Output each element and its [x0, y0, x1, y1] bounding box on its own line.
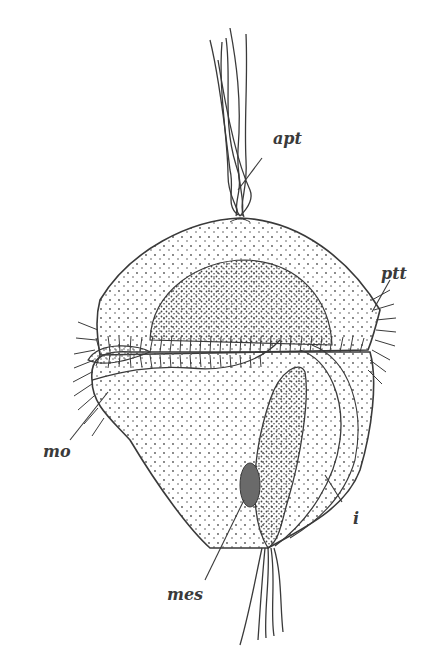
label-mesoderm: mes	[167, 587, 203, 603]
label-prototroch: ptt	[381, 266, 407, 282]
larva-illustration	[0, 0, 433, 670]
mesoderm-cells	[240, 463, 260, 507]
label-apical-tuft: apt	[273, 131, 302, 147]
apical-tuft	[210, 28, 251, 217]
posterior-tuft	[240, 548, 283, 645]
label-intestine: i	[353, 511, 359, 527]
label-mouth: mo	[43, 444, 71, 460]
